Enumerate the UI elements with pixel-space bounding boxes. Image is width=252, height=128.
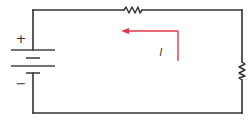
circuit-diagram: + − I xyxy=(0,0,252,128)
resistor-top xyxy=(124,7,142,13)
resistor-right xyxy=(239,62,245,80)
minus-label: − xyxy=(16,76,27,91)
current-arrow xyxy=(127,31,178,61)
wires xyxy=(33,10,242,113)
battery xyxy=(11,50,55,73)
arrowhead-icon xyxy=(121,28,129,34)
plus-label: + xyxy=(16,31,27,46)
current-label: I xyxy=(160,47,163,58)
